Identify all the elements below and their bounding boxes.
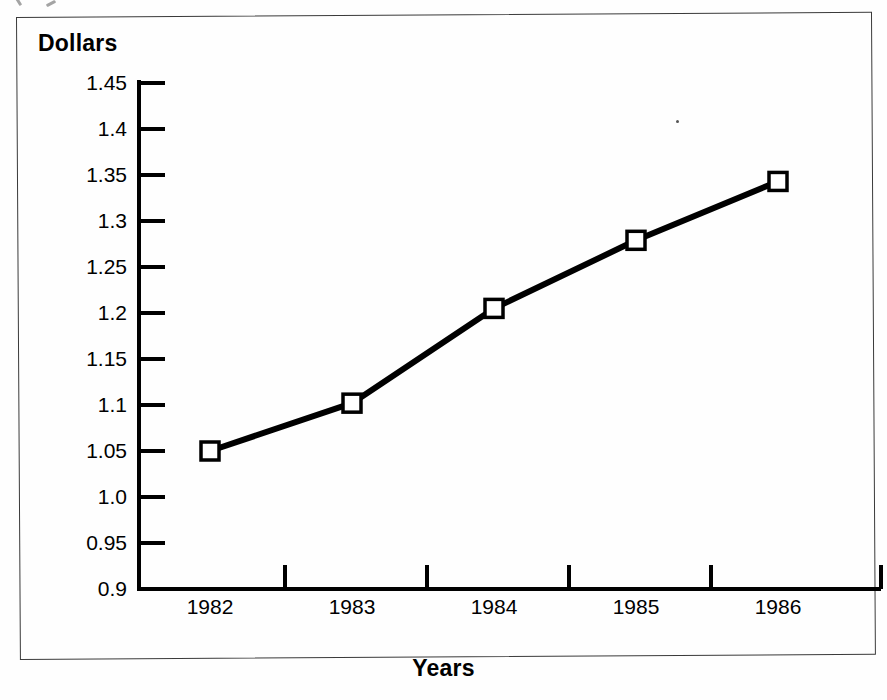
y-axis-tick-label: 1.05: [35, 440, 127, 461]
y-axis-tick-label: 1.15: [35, 348, 127, 369]
x-axis-tick-label: 1984: [434, 596, 554, 617]
y-axis-tick-label: 1.2: [35, 302, 127, 323]
data-point-marker: [627, 231, 645, 249]
y-axis-tick-label: 1.35: [35, 164, 127, 185]
x-axis-tick-label: 1985: [576, 596, 696, 617]
y-axis-tick-label: 1.0: [35, 486, 127, 507]
data-point-marker: [201, 442, 219, 460]
chart-canvas: [0, 0, 887, 700]
x-axis-ticks: [285, 565, 881, 589]
y-axis-tick-label: 1.25: [35, 256, 127, 277]
data-point-marker: [769, 172, 787, 190]
x-axis-tick-label: 1983: [292, 596, 412, 617]
data-point-marker: [343, 394, 361, 412]
y-axis-ticks: [139, 83, 165, 543]
axis-spines: [139, 80, 881, 591]
chart-plot-area: Dollars Years 1.451.41.351.31.251.21.151…: [0, 0, 887, 700]
y-axis-tick-label: 1.3: [35, 210, 127, 231]
x-axis-tick-label: 1982: [150, 596, 270, 617]
y-axis-tick-label: 1.45: [35, 72, 127, 93]
figure-page: Dollars Years 1.451.41.351.31.251.21.151…: [0, 0, 887, 700]
x-axis-tick-label: 1986: [718, 596, 838, 617]
y-axis-tick-label: 1.4: [35, 118, 127, 139]
y-axis-tick-label: 1.1: [35, 394, 127, 415]
data-point-marker: [485, 299, 503, 317]
y-axis-tick-label: 0.9: [35, 578, 127, 599]
y-axis-tick-label: 0.95: [35, 532, 127, 553]
